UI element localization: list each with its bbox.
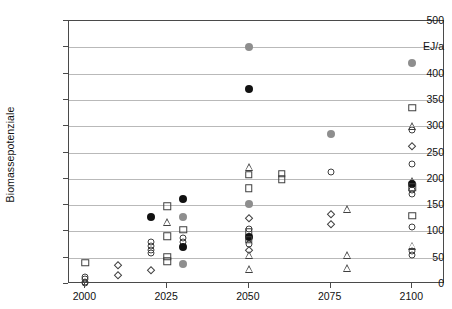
y-axis-tick-label: 350 — [394, 94, 452, 104]
gridline — [69, 153, 443, 154]
x-axis-tick — [330, 283, 331, 288]
y-axis-tick — [63, 125, 68, 126]
gridline — [69, 231, 443, 232]
y-axis-tick-label: 250 — [394, 147, 452, 157]
y-axis-tick — [63, 20, 68, 21]
plot-area — [68, 20, 444, 283]
scatter-chart: Biomassepotenziale 050100150200250300350… — [0, 0, 452, 309]
y-axis-tick-label: 500 — [394, 15, 452, 25]
y-axis-tick — [63, 257, 68, 258]
x-axis-tick-label: 2025 — [136, 291, 196, 302]
y-axis-tick — [63, 283, 68, 284]
y-axis-tick — [63, 99, 68, 100]
y-axis-tick-label: 150 — [394, 199, 452, 209]
gridline — [69, 258, 443, 259]
y-axis-tick — [63, 204, 68, 205]
y-axis-title: Biomassepotenziale — [0, 0, 20, 309]
gridline — [69, 74, 443, 75]
gridline — [69, 47, 443, 48]
y-axis-tick-label: 100 — [394, 225, 452, 235]
x-axis-tick-label: 2100 — [381, 291, 441, 302]
y-axis-tick-label: 400 — [394, 68, 452, 78]
y-axis-tick-label: 200 — [394, 173, 452, 183]
gridlines — [69, 21, 443, 282]
y-axis-tick — [63, 73, 68, 74]
y-axis-tick — [63, 152, 68, 153]
gridline — [69, 126, 443, 127]
gridline — [69, 205, 443, 206]
x-axis-tick-label: 2075 — [300, 291, 360, 302]
x-axis-tick — [166, 283, 167, 288]
y-axis-tick-label: 0 — [394, 278, 452, 288]
y-axis-tick — [63, 178, 68, 179]
gridline — [69, 179, 443, 180]
y-axis-tick-label: 300 — [394, 120, 452, 130]
x-axis-tick — [248, 283, 249, 288]
y-axis-tick-label: 50 — [394, 252, 452, 262]
y-axis-tick — [63, 46, 68, 47]
gridline — [69, 100, 443, 101]
y-axis-tick — [63, 230, 68, 231]
x-axis-tick-label: 2000 — [54, 291, 114, 302]
y-axis-tick-label: EJ/a — [394, 41, 452, 51]
x-axis-tick-label: 2050 — [218, 291, 278, 302]
x-axis-tick — [411, 283, 412, 288]
x-axis-tick — [84, 283, 85, 288]
